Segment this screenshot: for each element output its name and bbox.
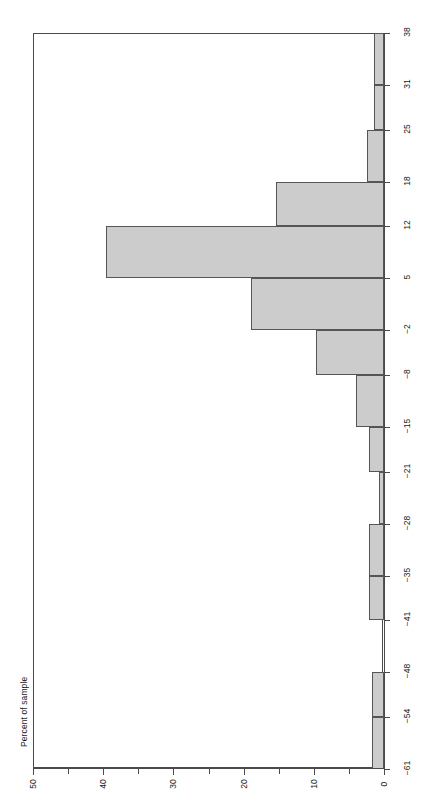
return-axis-tick-label: −54	[402, 701, 412, 731]
return-axis-tick	[385, 330, 390, 331]
return-axis-tick	[385, 472, 390, 473]
percent-axis-tick-label: 10	[309, 772, 319, 796]
return-axis-tick	[385, 85, 390, 86]
return-axis-tick	[385, 33, 390, 34]
return-axis-tick-label: −28	[402, 508, 412, 538]
return-axis-tick-label: −48	[402, 656, 412, 686]
return-axis-tick-label: −8	[402, 359, 412, 389]
return-axis-tick	[385, 769, 390, 770]
return-axis-tick-label: −35	[402, 560, 412, 590]
percent-axis-tick	[349, 769, 350, 774]
histogram-bar	[372, 717, 384, 769]
histogram-bar	[369, 427, 384, 472]
histogram-bar	[374, 33, 384, 85]
return-axis-tick-label: 18	[402, 166, 412, 196]
percent-axis-tick-label: 0	[379, 772, 389, 796]
return-axis-tick	[385, 576, 390, 577]
histogram-bar	[369, 524, 384, 576]
return-axis-tick-label: −61	[402, 753, 412, 783]
return-axis-tick	[385, 717, 390, 718]
percent-axis-tick-label: 50	[28, 772, 38, 796]
return-axis-tick-label: 12	[402, 210, 412, 240]
return-axis-tick	[385, 226, 390, 227]
y-axis-title: Percent of sample	[19, 651, 29, 747]
percent-axis-tick	[209, 769, 210, 774]
histogram-bar	[251, 278, 384, 330]
return-axis-tick-label: −2	[402, 314, 412, 344]
return-axis-tick-label: 5	[402, 262, 412, 292]
return-axis-tick-label: 31	[402, 69, 412, 99]
return-axis-tick	[385, 620, 390, 621]
histogram-bar	[106, 226, 384, 278]
histogram-figure: Percent of sample Annual percent return …	[0, 0, 444, 809]
histogram-bar	[316, 330, 384, 375]
histogram-bar	[372, 672, 384, 717]
return-axis-tick	[385, 375, 390, 376]
histogram-bar	[374, 85, 384, 130]
percent-axis-tick	[68, 769, 69, 774]
percent-axis-tick	[138, 769, 139, 774]
return-axis-tick	[385, 182, 390, 183]
histogram-bar	[367, 130, 384, 182]
histogram-bar	[369, 576, 384, 621]
return-axis-tick-label: −41	[402, 604, 412, 634]
histogram-bar	[356, 375, 384, 427]
return-axis-tick-label: 38	[402, 17, 412, 47]
return-axis-tick	[385, 524, 390, 525]
percent-axis-tick-label: 30	[168, 772, 178, 796]
return-axis-tick	[385, 672, 390, 673]
return-axis-tick-label: 25	[402, 114, 412, 144]
return-axis-tick	[385, 427, 390, 428]
return-axis-tick-label: −21	[402, 456, 412, 486]
return-axis-tick	[385, 130, 390, 131]
return-axis-tick	[385, 278, 390, 279]
percent-axis-tick-label: 40	[98, 772, 108, 796]
percent-axis-tick-label: 20	[239, 772, 249, 796]
bars-layer	[33, 33, 384, 769]
return-axis-tick-label: −15	[402, 411, 412, 441]
return-axis-line	[384, 33, 385, 769]
percent-axis-tick	[279, 769, 280, 774]
histogram-bar	[276, 182, 384, 227]
